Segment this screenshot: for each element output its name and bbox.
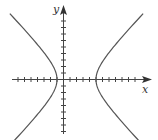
x-axis-label: x <box>142 84 148 95</box>
hyperbola-left-branch <box>7 14 57 140</box>
y-axis-label: y <box>53 4 59 15</box>
hyperbola-graph <box>0 0 158 140</box>
hyperbola-right-branch <box>96 14 146 140</box>
